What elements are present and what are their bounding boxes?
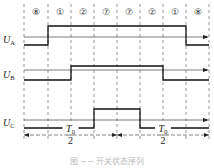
waveform — [24, 66, 209, 80]
timing-diagram: ⑧①②⑦⑦②①⑧ UAUBUC T02T02 图 ─ ─ 开关状态序列 — [0, 0, 214, 168]
segment-label: ① — [171, 7, 179, 17]
signal-label: UB — [3, 69, 15, 81]
arrow-icon — [203, 35, 209, 39]
arrow-icon — [203, 68, 209, 72]
signal-c: UC — [3, 109, 209, 129]
arrow-left-icon — [24, 133, 29, 137]
arrow-right-icon — [112, 133, 117, 137]
segment-label: ⑧ — [32, 7, 40, 17]
segment-label: ⑧ — [194, 7, 202, 17]
segment-label: ② — [79, 7, 87, 17]
period-denominator: 2 — [68, 135, 73, 146]
dashed-gridlines — [24, 4, 209, 140]
segment-label: ① — [56, 7, 64, 17]
period-denominator: 2 — [161, 135, 166, 146]
period-annotation: T02T02 — [24, 123, 209, 146]
signal-a: UA — [3, 26, 209, 46]
waveform — [24, 109, 209, 128]
segment-label: ⑦ — [102, 7, 110, 17]
signal-b: UB — [3, 66, 209, 81]
arrow-left-icon — [117, 133, 122, 137]
segment-label: ② — [148, 7, 156, 17]
arrow-right-icon — [204, 133, 209, 137]
figure-caption: 图 ─ ─ 开关状态序列 — [70, 156, 143, 166]
signal-label: UA — [3, 34, 15, 46]
waveform — [24, 26, 209, 45]
signal-label: UC — [3, 117, 15, 129]
segment-label: ⑦ — [125, 7, 133, 17]
signal-waveforms: UAUBUC — [3, 26, 209, 129]
arrow-icon — [203, 118, 209, 122]
